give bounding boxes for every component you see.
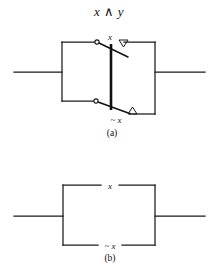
panel-a-top-contact-node[interactable]	[95, 40, 99, 44]
panel-b-caption: (b)	[104, 253, 115, 264]
panel-a-top-switch-blade[interactable]	[99, 43, 128, 57]
panel-a-bottom-switch-label: ~ x	[110, 115, 121, 125]
panel-a-top-switch-label: x	[107, 32, 112, 42]
panel-a-caption: (a)	[107, 128, 118, 139]
panel-a-group: x ~ x (a)	[14, 32, 205, 139]
panel-a-top-triangle-icon	[119, 40, 128, 47]
circuit-diagram-canvas: x ~ x (a) x ~ x (b)	[0, 0, 218, 267]
panel-a-bottom-switch-blade[interactable]	[98, 102, 131, 114]
panel-b-group: x ~ x (b)	[14, 181, 205, 264]
figure-container: x ∧ y	[0, 0, 218, 267]
panel-a-bottom-contact-node[interactable]	[94, 99, 98, 103]
panel-b-top-branch-label: x	[107, 181, 112, 191]
panel-b-bottom-branch-label: ~ x	[104, 241, 115, 251]
